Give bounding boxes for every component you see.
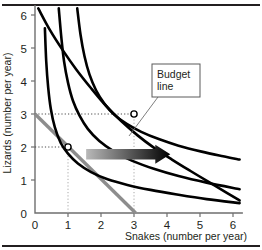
y-axis-title: Lizards (number per year)	[1, 53, 13, 174]
shift-arrow	[86, 145, 170, 164]
y-tick-label-6: 6	[21, 10, 27, 22]
y-tick-label-1: 1	[21, 175, 27, 187]
equilibrium-point-a	[65, 144, 71, 150]
x-tick-label-0: 0	[32, 219, 38, 231]
equilibrium-point-b	[131, 111, 137, 117]
y-tick-label-3: 3	[21, 109, 27, 121]
y-tick-label-0: 0	[21, 208, 27, 220]
budget-line-callout-line1: Budget	[157, 68, 190, 80]
x-tick-label-2: 2	[98, 219, 104, 231]
x-tick-label-1: 1	[65, 219, 71, 231]
y-tick-label-5: 5	[21, 43, 27, 55]
x-axis-title: Snakes (number per year)	[125, 230, 247, 242]
indifference-curve-4	[38, 8, 239, 200]
indifference-curve-figure: 01234560123456Snakes (number per year)Li…	[0, 0, 262, 250]
y-tick-label-2: 2	[21, 142, 27, 154]
indifference-curve-1	[45, 28, 240, 203]
budget-line-callout-line2: line	[157, 80, 174, 92]
chart-canvas: 01234560123456Snakes (number per year)Li…	[0, 0, 262, 250]
budget-line	[35, 114, 136, 213]
plot-axes	[35, 5, 243, 213]
y-tick-label-4: 4	[21, 76, 28, 88]
